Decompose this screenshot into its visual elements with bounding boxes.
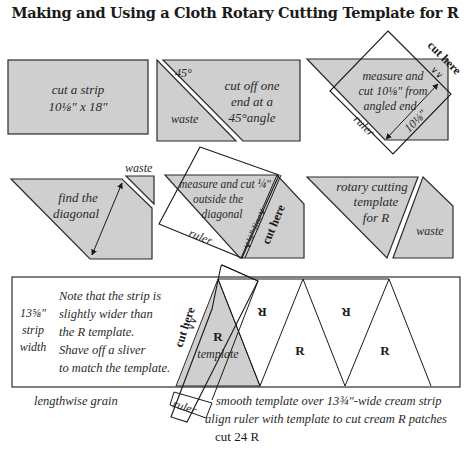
caption-line1: smooth template over 13¾"-wide cream str… xyxy=(216,394,442,408)
step6-label-line1: rotary cutting xyxy=(336,179,408,194)
strip-width-value: 13⅝" xyxy=(20,306,47,320)
step1-label-line1: cut a strip xyxy=(52,82,105,97)
step6-label-line2: template xyxy=(354,194,399,209)
step2-label-line1: cut off one xyxy=(225,78,280,93)
step5-label-line1: measure and cut ¼" xyxy=(179,178,271,190)
strip-width-label-line3: width xyxy=(20,340,47,354)
strip-note-line4: Shave off a sliver xyxy=(59,343,146,357)
step2-label-line3: 45°angle xyxy=(228,110,275,125)
step3-panel: measure and cut 10⅛" from angled end rul… xyxy=(307,31,465,154)
strip-note-line3: the R template. xyxy=(59,325,134,339)
strip-note-line2: slightly wider than xyxy=(59,307,153,321)
step2-angle-label: 45° xyxy=(175,66,192,80)
step4-label-line2: diagonal xyxy=(53,206,100,221)
step4-panel: waste find the diagonal xyxy=(11,161,154,259)
step3-label-line2: cut 10⅛" from xyxy=(359,84,428,98)
step2-label-line2: end at a xyxy=(231,94,273,109)
cutting-diagram: cut a strip 10⅛" x 18" 45° waste cut off… xyxy=(0,0,470,449)
caption-line2: align ruler with template to cut cream R… xyxy=(205,412,447,426)
patch-letter-2: R xyxy=(295,343,305,358)
step6-label-line3: for R xyxy=(363,210,389,225)
step1-label-line2: 10⅛" x 18" xyxy=(49,99,108,114)
grain-label: lengthwise grain xyxy=(34,394,118,408)
step4-label-line1: find the xyxy=(58,190,98,205)
step3-label-line1: measure and xyxy=(362,69,424,83)
strip-note-line1: Note that the strip is xyxy=(58,289,161,303)
patch-letter-inverted-3: R xyxy=(341,305,351,320)
patch-letter-inverted-1: R xyxy=(257,305,267,320)
step5-label-line3: diagonal xyxy=(202,208,243,221)
strip-note-line5: to match the template. xyxy=(59,361,170,375)
count-label: cut 24 R xyxy=(215,429,259,444)
step6-waste-label: waste xyxy=(416,224,444,238)
patch-letter-4: R xyxy=(380,343,390,358)
step3-label-line3: angled end xyxy=(364,99,418,113)
step5-label-line2: outside the xyxy=(193,193,243,205)
step4-waste-label: waste xyxy=(125,161,153,175)
step2-waste-label: waste xyxy=(171,112,199,126)
step2-panel: 45° waste cut off one end at a 45°angle xyxy=(157,60,300,141)
strip-ruler-label: ruler xyxy=(171,397,198,418)
step5-panel: measure and cut ¼" outside the diagonal … xyxy=(159,147,304,258)
step1-panel: cut a strip 10⅛" x 18" xyxy=(8,60,148,134)
step6-panel: rotary cutting template for R waste xyxy=(307,177,453,258)
template-letter: R xyxy=(213,329,223,344)
template-label: template xyxy=(197,347,239,361)
strip-width-label-line2: strip xyxy=(22,323,44,337)
